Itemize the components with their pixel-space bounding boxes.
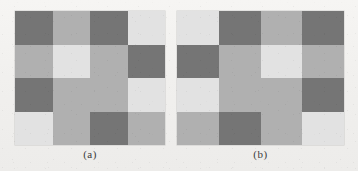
grid-cell bbox=[302, 11, 344, 45]
grid-cell bbox=[177, 112, 219, 146]
grid-cell bbox=[15, 78, 53, 112]
grid-cell bbox=[53, 11, 91, 45]
figure-root: (a) (b) bbox=[0, 0, 358, 171]
panel-a bbox=[15, 11, 165, 145]
grid-cell bbox=[128, 11, 166, 45]
grid-cell bbox=[128, 112, 166, 146]
grid-cell bbox=[128, 78, 166, 112]
grid-cell bbox=[219, 78, 261, 112]
grid-cell bbox=[128, 45, 166, 79]
panel-b bbox=[177, 11, 344, 145]
grid-cell bbox=[53, 112, 91, 146]
grid-cell bbox=[53, 78, 91, 112]
grid-cell bbox=[15, 45, 53, 79]
grid-cell bbox=[177, 11, 219, 45]
grid-cell bbox=[261, 11, 303, 45]
panel-b-caption: (b) bbox=[177, 148, 344, 160]
checkerboard-grid-b bbox=[177, 11, 344, 145]
checkerboard-grid-a bbox=[15, 11, 165, 145]
grid-cell bbox=[302, 112, 344, 146]
grid-cell bbox=[302, 45, 344, 79]
panel-container: (a) (b) bbox=[0, 0, 358, 171]
grid-cell bbox=[219, 11, 261, 45]
grid-cell bbox=[302, 78, 344, 112]
grid-cell bbox=[177, 78, 219, 112]
grid-cell bbox=[261, 112, 303, 146]
grid-cell bbox=[90, 11, 128, 45]
grid-cell bbox=[90, 112, 128, 146]
grid-cell bbox=[261, 45, 303, 79]
grid-cell bbox=[261, 78, 303, 112]
grid-cell bbox=[90, 45, 128, 79]
grid-cell bbox=[15, 112, 53, 146]
grid-cell bbox=[219, 112, 261, 146]
grid-cell bbox=[15, 11, 53, 45]
grid-cell bbox=[219, 45, 261, 79]
grid-cell bbox=[177, 45, 219, 79]
grid-cell bbox=[53, 45, 91, 79]
grid-cell bbox=[90, 78, 128, 112]
panel-a-caption: (a) bbox=[15, 148, 165, 160]
